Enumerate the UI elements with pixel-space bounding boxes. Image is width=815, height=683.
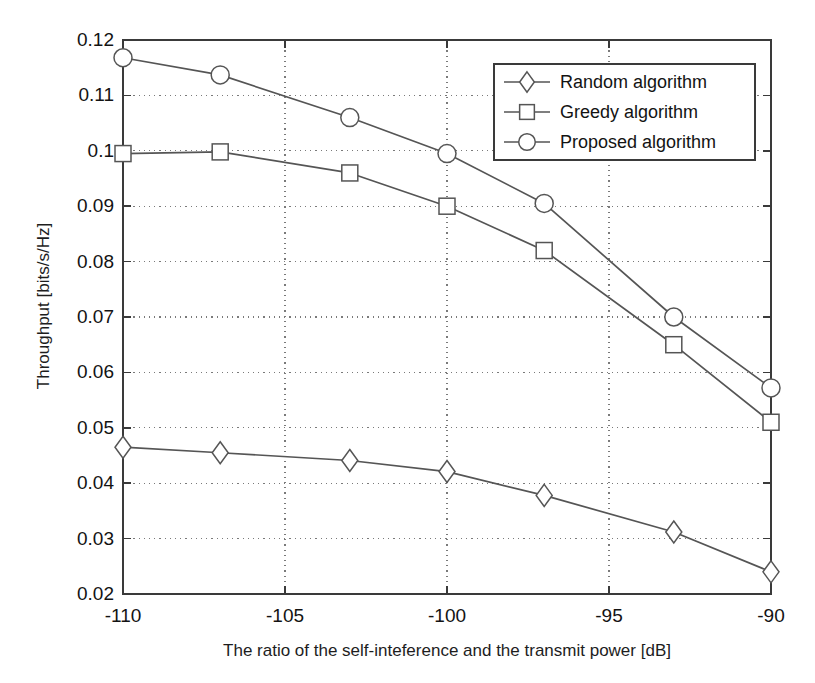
data-point-marker-square (212, 144, 228, 160)
data-point-marker-circle (211, 66, 229, 84)
y-axis-tick-labels: 0.020.030.040.050.060.070.080.090.10.110… (44, 0, 114, 683)
data-point-marker-diamond (115, 436, 131, 458)
data-point-marker-circle (341, 109, 359, 127)
data-point-marker-square (536, 243, 552, 259)
line-chart-plot: Random algorithmGreedy algorithmProposed… (0, 0, 815, 683)
data-point-marker-square (520, 105, 535, 120)
data-point-marker-square (763, 414, 779, 430)
y-tick-label: 0.1 (44, 140, 114, 162)
x-tick-label: -110 (78, 605, 168, 627)
data-point-marker-diamond (536, 484, 552, 506)
data-point-marker-square (342, 165, 358, 181)
y-tick-label: 0.05 (44, 417, 114, 439)
y-tick-label: 0.08 (44, 251, 114, 273)
data-point-marker-circle (535, 194, 553, 212)
y-tick-label: 0.06 (44, 361, 114, 383)
x-tick-label: -105 (240, 605, 330, 627)
data-point-marker-circle (438, 145, 456, 163)
y-tick-label: 0.11 (44, 84, 114, 106)
data-point-marker-square (439, 198, 455, 214)
x-tick-label: -90 (726, 605, 815, 627)
legend-label: Proposed algorithm (560, 132, 716, 152)
data-point-marker-square (666, 337, 682, 353)
data-point-marker-diamond (342, 449, 358, 471)
x-axis-tick-labels: -110-105-100-95-90 (0, 605, 815, 635)
x-axis-title: The ratio of the self-inteference and th… (123, 641, 771, 661)
legend-label: Greedy algorithm (560, 102, 698, 122)
x-tick-label: -100 (402, 605, 492, 627)
data-point-marker-diamond (666, 521, 682, 543)
x-tick-label: -95 (564, 605, 654, 627)
chart-legend: Random algorithmGreedy algorithmProposed… (494, 64, 755, 160)
y-tick-label: 0.12 (44, 29, 114, 51)
data-point-marker-diamond (212, 442, 228, 464)
y-tick-label: 0.02 (44, 583, 114, 605)
series-line (123, 152, 771, 422)
data-point-marker-circle (519, 134, 536, 151)
legend-item-square[interactable]: Greedy algorithm (504, 102, 698, 122)
data-point-marker-circle (762, 379, 780, 397)
chart-figure: Random algorithmGreedy algorithmProposed… (0, 0, 815, 683)
data-point-marker-circle (114, 49, 132, 67)
legend-label: Random algorithm (560, 72, 707, 92)
y-tick-label: 0.04 (44, 472, 114, 494)
y-tick-label: 0.03 (44, 528, 114, 550)
series-greedy-algorithm (115, 144, 779, 430)
y-axis-title: Throughput [bits/s/Hz] (34, 176, 54, 436)
data-point-marker-diamond (439, 461, 455, 483)
data-point-marker-circle (665, 308, 683, 326)
y-tick-label: 0.07 (44, 306, 114, 328)
y-tick-label: 0.09 (44, 195, 114, 217)
data-point-marker-diamond (763, 561, 779, 583)
data-point-marker-square (115, 146, 131, 162)
